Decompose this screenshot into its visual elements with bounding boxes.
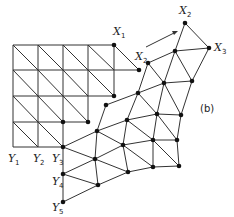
svg-text:4: 4 — [59, 182, 64, 190]
svg-text:1: 1 — [15, 159, 19, 167]
svg-text:2: 2 — [187, 11, 191, 19]
svg-text:2: 2 — [143, 57, 147, 65]
square-mesh — [13, 45, 139, 147]
svg-text:3: 3 — [222, 48, 226, 56]
mesh-deformation-diagram: X1 X2 X3 X2 Y1 Y2 Y3 Y4 Y5 (b) — [0, 0, 234, 217]
mesh-nodes — [61, 21, 212, 205]
svg-text:2: 2 — [40, 159, 44, 167]
svg-text:3: 3 — [59, 159, 63, 167]
svg-text:5: 5 — [59, 208, 63, 216]
panel-label: (b) — [200, 103, 214, 114]
mesh-figure: X1 X2 X3 X2 Y1 Y2 Y3 Y4 Y5 (b) — [0, 0, 234, 217]
mapping-arrow — [146, 31, 178, 47]
node-labels: X1 X2 X3 X2 Y1 Y2 Y3 Y4 Y5 (b) — [8, 4, 226, 216]
svg-text:1: 1 — [121, 32, 125, 40]
